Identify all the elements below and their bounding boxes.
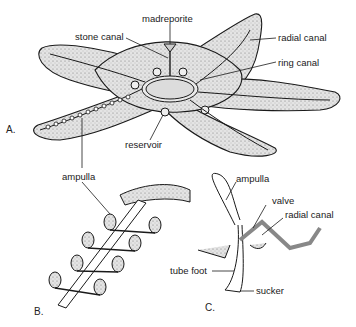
label-ring-canal: ring canal	[278, 58, 319, 68]
panel-label-c: C.	[205, 302, 215, 313]
label-sucker: sucker	[256, 286, 284, 296]
label-radial-canal-a: radial canal	[278, 33, 327, 43]
label-stone-canal: stone canal	[75, 32, 124, 42]
panel-label-a: A.	[6, 124, 15, 135]
panel-label-b: B.	[34, 306, 43, 317]
tube-foot-diagram	[198, 173, 320, 292]
label-ampulla-b: ampulla	[62, 172, 95, 182]
ampullae-diagram	[49, 185, 190, 308]
label-tube-foot: tube foot	[170, 266, 207, 276]
label-valve: valve	[272, 196, 294, 206]
label-madreporite: madreporite	[142, 14, 193, 24]
label-reservoir: reservoir	[125, 140, 162, 150]
label-radial-canal-c: radial canal	[285, 210, 334, 220]
leader-line-ampulla-b	[82, 182, 110, 214]
label-ampulla-c: ampulla	[236, 174, 269, 184]
diagram-canvas	[0, 0, 356, 327]
